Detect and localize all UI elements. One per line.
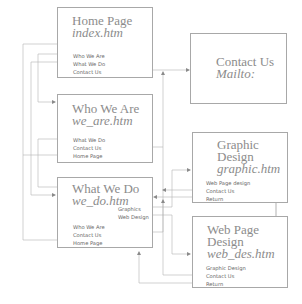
link-contact-us[interactable]: Contact Us: [73, 145, 101, 151]
link-who-we-are[interactable]: Who We Are: [73, 53, 105, 59]
link-web-page-design[interactable]: Web Page design: [206, 180, 250, 186]
link-contact-us[interactable]: Contact Us: [206, 273, 234, 279]
link-return[interactable]: Return: [206, 196, 223, 202]
link-what-we-do[interactable]: What We Do: [73, 61, 105, 67]
node-file: we_are.htm: [72, 115, 133, 127]
link-graphics[interactable]: Graphics: [118, 206, 141, 212]
link-web-design[interactable]: Web Design: [118, 214, 149, 220]
node-graphic-design: Graphic Design graphic.htm Web Page desi…: [192, 132, 288, 203]
node-file: index.htm: [72, 27, 123, 39]
link-what-we-do[interactable]: What We Do: [73, 137, 105, 143]
node-what-we-do: What We Do we_do.htm Graphics Web Design…: [57, 177, 153, 248]
link-return[interactable]: Return: [206, 281, 223, 287]
link-home-page[interactable]: Home Page: [73, 153, 103, 159]
node-web-page-design: Web Page Design web_des.htm Graphic Desi…: [192, 216, 288, 288]
site-map-diagram: Home Page index.htm Who We Are What We D…: [0, 0, 302, 304]
link-contact-us[interactable]: Contact Us: [206, 188, 234, 194]
node-file: web_des.htm: [207, 248, 275, 260]
link-contact-us[interactable]: Contact Us: [73, 69, 101, 75]
node-home-page: Home Page index.htm Who We Are What We D…: [57, 7, 153, 78]
node-file: graphic.htm: [217, 163, 280, 175]
node-file: Mailto:: [216, 68, 255, 80]
link-home-page[interactable]: Home Page: [73, 240, 103, 246]
link-who-we-are[interactable]: Who We Are: [73, 224, 105, 230]
link-contact-us[interactable]: Contact Us: [73, 232, 101, 238]
node-contact-us: Contact Us Mailto:: [190, 33, 287, 104]
node-who-we-are: Who We Are we_are.htm What We Do Contact…: [57, 94, 153, 163]
link-graphic-design[interactable]: Graphic Design: [206, 265, 246, 271]
